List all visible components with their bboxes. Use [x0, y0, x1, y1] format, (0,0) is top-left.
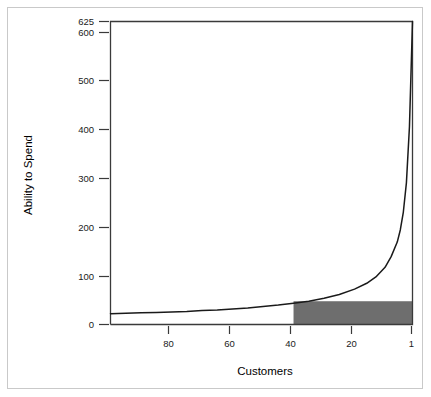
- y-tick-label-0: 0: [89, 319, 94, 330]
- chart-figure: 625 600 500 400 300 200 100 0 80 60 40 2…: [0, 0, 431, 397]
- x-tick-label-80: 80: [163, 338, 174, 349]
- highlighted-region-rect: [294, 301, 413, 324]
- y-tick-label-200: 200: [78, 222, 94, 233]
- x-tick-label-20: 20: [346, 338, 357, 349]
- y-tick-label-300: 300: [78, 173, 94, 184]
- y-axis-title: Ability to Spend: [22, 135, 34, 215]
- y-axis-ticks: [99, 22, 109, 325]
- y-tick-label-625: 625: [78, 16, 94, 27]
- y-tick-label-400: 400: [78, 124, 94, 135]
- x-axis-title: Customers: [237, 365, 293, 377]
- x-axis-ticks: [169, 326, 412, 334]
- y-tick-label-600: 600: [78, 27, 94, 38]
- y-tick-label-100: 100: [78, 271, 94, 282]
- chart-plot: 625 600 500 400 300 200 100 0 80 60 40 2…: [0, 0, 431, 397]
- x-tick-label-60: 60: [224, 338, 235, 349]
- x-axis-tick-labels: 80 60 40 20 1: [163, 338, 414, 349]
- y-axis-tick-labels: 625 600 500 400 300 200 100 0: [78, 16, 94, 330]
- x-tick-label-40: 40: [285, 338, 296, 349]
- ability-to-spend-curve: [111, 22, 413, 314]
- y-tick-label-500: 500: [78, 75, 94, 86]
- plot-axes-frame: [111, 22, 413, 325]
- x-tick-label-1: 1: [409, 338, 414, 349]
